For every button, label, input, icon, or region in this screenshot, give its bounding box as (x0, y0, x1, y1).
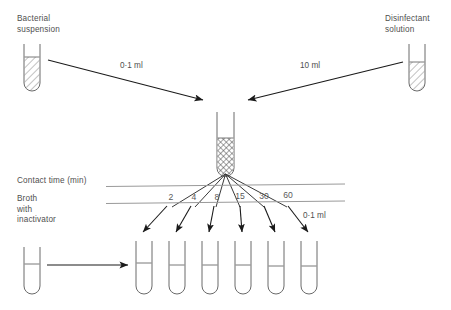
disinfectant-solution-label: Disinfectant solution (385, 14, 430, 35)
disinfectant-solution-tube (409, 44, 425, 91)
contact-time-value: 4 (187, 192, 201, 202)
broth-source-tube (24, 247, 40, 294)
bacterial-suspension-tube (24, 44, 40, 91)
bacterial-suspension-label: Bacterial suspension (17, 14, 60, 35)
disinfectant-test-diagram (0, 0, 451, 310)
inactivator-rule (106, 201, 345, 204)
mixing-tube (217, 112, 234, 177)
sample-tube (136, 241, 152, 294)
bacterial-transfer-volume: 0·1 ml (120, 61, 143, 70)
sample-tube (301, 241, 317, 294)
contact-time-value: 8 (210, 192, 224, 202)
disinfectant-transfer-volume: 10 ml (300, 61, 320, 70)
sample-transfer-volume: 0·1 ml (303, 211, 326, 220)
diagram-canvas: Bacterial suspension Disinfectant soluti… (0, 0, 451, 310)
contact-time-value: 30 (255, 191, 273, 201)
sample-tube (235, 241, 251, 294)
contact-time-label: Contact time (min) (17, 176, 87, 187)
sample-dispense-arrows (143, 206, 308, 232)
sample-tube (268, 241, 284, 294)
broth-inactivator-label: Broth with inactivator (17, 194, 56, 226)
sample-tube (169, 241, 185, 294)
contact-time-value: 15 (231, 191, 249, 201)
sample-tube-row (136, 241, 317, 294)
contact-time-value: 2 (164, 192, 178, 202)
disinfectant-transfer-arrow (248, 62, 403, 100)
contact-time-value: 60 (279, 190, 297, 200)
contact-time-rule (106, 184, 345, 187)
sample-tube (202, 241, 218, 294)
